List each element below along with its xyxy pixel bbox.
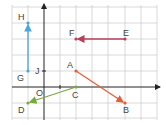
label-g: G (17, 73, 24, 83)
point-h (26, 21, 29, 24)
label-e: E (123, 28, 129, 38)
label-h: H (18, 12, 25, 22)
label-d: D (18, 105, 25, 115)
axes (12, 4, 160, 120)
grid (12, 5, 157, 120)
label-f: F (69, 28, 75, 38)
label-j: J (35, 66, 40, 76)
point-g (26, 69, 29, 72)
label-a: A (67, 60, 73, 70)
coordinate-grid-diagram: A B C D E F G H J O (0, 0, 166, 125)
label-origin: O (36, 88, 43, 98)
label-c: C (72, 90, 79, 100)
point-d (26, 101, 29, 104)
point-f (74, 37, 77, 40)
point-a (74, 69, 77, 72)
label-b: B (123, 105, 129, 115)
point-c (74, 85, 77, 88)
